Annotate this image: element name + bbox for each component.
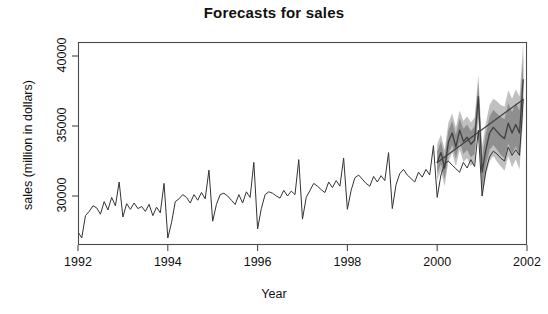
y-tick-label: 40000	[55, 25, 69, 85]
plot-area	[78, 42, 527, 245]
y-tick-label: 30000	[55, 165, 69, 225]
y-tick-label: 35000	[55, 95, 69, 155]
x-tick-label: 1994	[138, 255, 198, 269]
x-tick-label: 2000	[407, 255, 467, 269]
forecast-chart-figure: Forecasts for sales sales (million in do…	[0, 0, 548, 314]
historical-series-line	[78, 99, 523, 238]
x-tick-label: 1998	[317, 255, 377, 269]
y-axis-label: sales (million in dollars)	[21, 45, 35, 245]
chart-title: Forecasts for sales	[0, 4, 548, 21]
x-axis-label: Year	[0, 287, 548, 301]
x-tick-label: 2002	[497, 255, 548, 269]
x-tick-label: 1992	[48, 255, 108, 269]
chart-svg	[78, 42, 527, 245]
x-tick-label: 1996	[228, 255, 288, 269]
